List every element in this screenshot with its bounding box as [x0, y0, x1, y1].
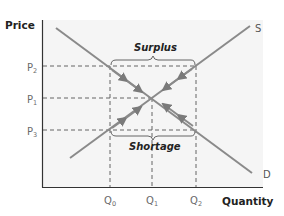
tick-p1: P1: [27, 94, 37, 107]
tick-p3: P3: [27, 126, 37, 139]
x-axis-title: Quantity: [222, 195, 274, 207]
tick-q2: Q2: [190, 195, 202, 208]
y-axis-title: Price: [5, 19, 35, 31]
surplus-label: Surplus: [134, 42, 177, 53]
tick-p2: P2: [27, 62, 37, 75]
shortage-label: Shortage: [129, 141, 181, 152]
tick-q1: Q1: [146, 195, 158, 208]
supply-label: S: [255, 23, 261, 34]
supply-demand-chart: Price Quantity S D Surplus Shortage P2 P…: [0, 0, 284, 216]
tick-q0: Q0: [104, 195, 116, 208]
demand-label: D: [263, 169, 271, 180]
